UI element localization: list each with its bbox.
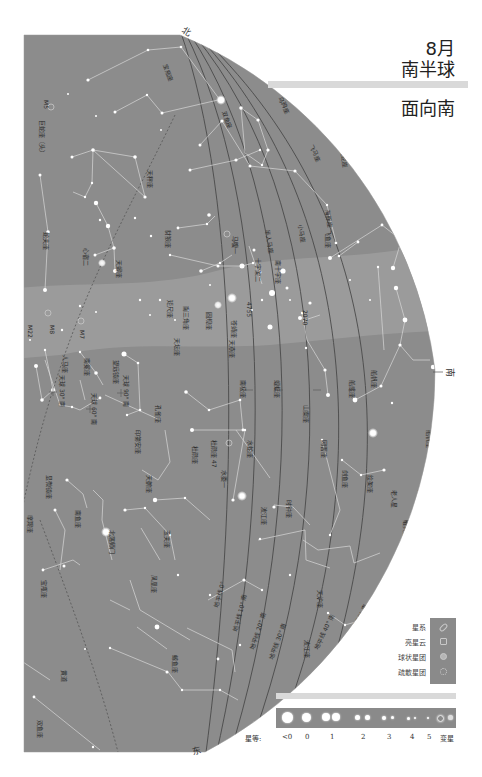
magnitude-dot-1b	[332, 713, 340, 721]
svg-text:山案座: 山案座	[302, 405, 310, 423]
variable-star-dot-b	[448, 715, 453, 720]
svg-text:天坛座: 天坛座	[173, 338, 181, 356]
svg-text:天鹤座: 天鹤座	[145, 475, 153, 493]
title-month: 8月	[401, 38, 455, 59]
title-block: 8月 南半球	[401, 38, 455, 81]
svg-text:天球 90° 南: 天球 90° 南	[122, 375, 130, 407]
title-hemisphere: 南半球	[401, 59, 455, 81]
magnitude-dot-3b	[391, 716, 394, 719]
svg-text:豺狼座: 豺狼座	[164, 230, 172, 248]
direction-south-label: 南	[444, 368, 457, 377]
magnitude-title: 星等:	[245, 733, 261, 743]
svg-text:南冕座: 南冕座	[83, 358, 91, 376]
svg-text:十字架二: 十字架二	[254, 258, 262, 282]
svg-text:南鱼座: 南鱼座	[74, 510, 82, 528]
svg-text:波江座: 波江座	[303, 640, 311, 658]
svg-text:南三角座: 南三角座	[182, 306, 190, 330]
nebula-icon	[440, 638, 447, 645]
svg-text:马腹一: 马腹一	[231, 236, 239, 254]
svg-text:印第安座: 印第安座	[134, 430, 142, 454]
svg-text:显微镜座: 显微镜座	[45, 475, 53, 499]
svg-text:双鱼座: 双鱼座	[36, 720, 44, 738]
magnitude-dot-0	[302, 713, 311, 722]
svg-text:波江座: 波江座	[260, 507, 268, 525]
legend-label-galaxy: 星系	[412, 622, 426, 632]
magnitude-dot-4b	[414, 717, 416, 719]
svg-text:网罟座: 网罟座	[320, 440, 328, 458]
legend-label-nebula: 亮星云	[405, 637, 426, 647]
svg-text:南十字座: 南十字座	[274, 260, 282, 284]
svg-text:M7: M7	[79, 330, 86, 339]
magnitude-label-1: 1	[330, 733, 334, 741]
svg-text:4755: 4755	[246, 302, 253, 317]
magnitude-dot-2a	[355, 715, 360, 720]
svg-text:天球 30° 南: 天球 30° 南	[58, 375, 66, 407]
magnitude-dot-2b	[365, 715, 370, 720]
magnitude-label-4: 4	[410, 733, 414, 741]
svg-text:矩尺座: 矩尺座	[166, 300, 174, 318]
svg-text:船底座: 船底座	[348, 380, 356, 398]
svg-text:孔雀座: 孔雀座	[154, 405, 162, 423]
svg-text:望远镜座: 望远镜座	[112, 360, 120, 384]
magnitude-label-lt0: <0	[282, 733, 292, 741]
magnitude-label-3: 3	[387, 733, 391, 741]
svg-text:M5: M5	[43, 100, 50, 109]
svg-text:天球 60° 南: 天球 60° 南	[90, 393, 98, 425]
svg-text:时钟座: 时钟座	[285, 500, 293, 518]
svg-text:剑鱼座: 剑鱼座	[341, 470, 349, 488]
svg-text:杜鹃座 47: 杜鹃座 47	[210, 440, 218, 468]
variable-star-dot-a	[437, 715, 444, 722]
svg-text:天炉座: 天炉座	[316, 590, 324, 608]
magnitude-label-5: 5	[427, 733, 431, 741]
svg-text:M8: M8	[49, 325, 56, 334]
svg-text:雕具座: 雕具座	[402, 520, 410, 538]
svg-text:水蛇座: 水蛇座	[246, 440, 254, 458]
magnitude-dot-lt0	[282, 712, 293, 723]
svg-text:船帆座: 船帆座	[425, 430, 433, 448]
svg-text:绘架座: 绘架座	[366, 475, 374, 493]
globular-cluster-icon	[440, 653, 447, 660]
magnitude-dot-4a	[407, 717, 410, 720]
svg-text:鲸鱼座: 鲸鱼座	[171, 655, 179, 673]
svg-text:蛇夫座: 蛇夫座	[42, 232, 50, 250]
svg-text:人马座: 人马座	[61, 355, 69, 373]
magnitude-label-2: 2	[361, 733, 365, 741]
svg-text:南极座: 南极座	[239, 380, 247, 398]
svg-text:水委一: 水委一	[221, 470, 228, 488]
svg-text:2070: 2070	[302, 310, 309, 325]
legend-label-globular-cluster: 球状星团	[398, 652, 426, 662]
svg-text:天蝎座: 天蝎座	[115, 260, 123, 278]
legend-label-open-cluster: 疏散星团	[398, 667, 426, 677]
magnitude-label-0: 0	[305, 733, 309, 741]
svg-text:M22: M22	[27, 325, 34, 338]
svg-text:天秤座: 天秤座	[146, 170, 154, 188]
title-facing: 面向南	[401, 94, 455, 120]
magnitude-label-variable: 变星	[440, 733, 454, 743]
svg-text:北落师门: 北落师门	[108, 530, 116, 554]
svg-text:老人星: 老人星	[391, 490, 398, 508]
svg-text:苍蝇座: 苍蝇座	[230, 320, 238, 338]
svg-text:心宿二: 心宿二	[82, 248, 90, 266]
magnitude-dot-5	[427, 717, 429, 719]
open-cluster-icon	[440, 668, 447, 675]
title-divider	[268, 81, 468, 88]
svg-text:天燕座: 天燕座	[228, 340, 236, 358]
svg-text:杜鹃座: 杜鹃座	[191, 446, 199, 464]
svg-text:圆规座: 圆规座	[205, 312, 213, 330]
magnitude-divider	[276, 693, 456, 699]
svg-text:凤凰座: 凤凰座	[150, 575, 158, 593]
svg-text:摩羯座: 摩羯座	[26, 515, 34, 533]
magnitude-dot-3a	[382, 716, 386, 720]
magnitude-dot-1a	[322, 713, 330, 721]
svg-text:黄道: 黄道	[60, 670, 68, 682]
svg-text:天鸽座: 天鸽座	[417, 490, 425, 508]
svg-text:玉夫座: 玉夫座	[163, 530, 171, 548]
svg-text:宝瓶座: 宝瓶座	[40, 580, 48, 598]
svg-text:蝘蜓座: 蝘蜓座	[273, 380, 281, 398]
svg-text:船帆座: 船帆座	[370, 370, 378, 388]
svg-text:飞鱼座: 飞鱼座	[324, 230, 332, 248]
svg-text:巨蛇座（头）: 巨蛇座（头）	[38, 120, 46, 156]
